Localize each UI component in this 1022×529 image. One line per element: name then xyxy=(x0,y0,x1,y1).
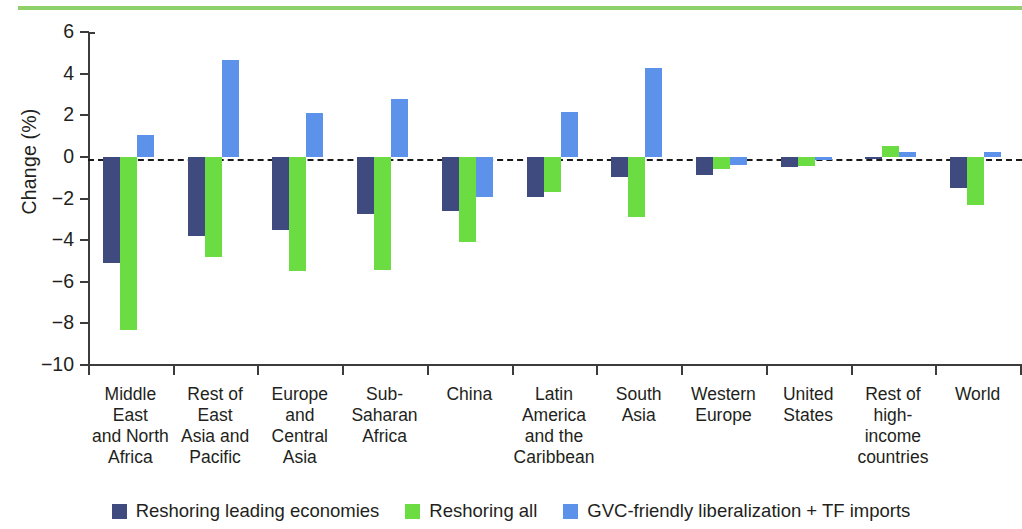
y-axis-tick-label: 4 xyxy=(22,64,74,84)
category-label-line: States xyxy=(762,405,855,426)
category-label-line: Western xyxy=(677,384,770,405)
bar xyxy=(391,99,408,157)
category-label-line: Sub- xyxy=(338,384,431,405)
category-label-line: Pacific xyxy=(169,447,262,468)
bar xyxy=(628,157,645,217)
bar xyxy=(815,157,832,160)
bar xyxy=(798,157,815,166)
plot-area xyxy=(88,32,1022,365)
category-label-line: Asia xyxy=(253,447,346,468)
bar xyxy=(544,157,561,192)
x-axis-tick xyxy=(257,366,259,375)
bar xyxy=(103,157,120,263)
category-label-line: East xyxy=(169,405,262,426)
bar xyxy=(882,146,899,156)
x-axis-category-label: World xyxy=(931,384,1022,405)
x-axis-tick xyxy=(88,366,90,375)
category-label-line: Middle xyxy=(84,384,177,405)
legend-label: Reshoring leading economies xyxy=(136,500,380,522)
category-label-line: East xyxy=(84,405,177,426)
bar xyxy=(899,152,916,157)
bar xyxy=(865,157,882,159)
chart-figure: Change (%) 6420−2−4−6−8−10 MiddleEastand… xyxy=(0,0,1022,529)
x-axis-category-label: China xyxy=(423,384,516,405)
bar xyxy=(730,157,747,165)
category-label-line: Europe xyxy=(253,384,346,405)
bar xyxy=(527,157,544,198)
y-axis-tick-label: −4 xyxy=(22,230,74,250)
legend-swatch-icon xyxy=(405,504,420,519)
bar xyxy=(222,60,239,157)
legend-label: Reshoring all xyxy=(429,500,537,522)
category-label-line: high-income xyxy=(847,405,940,447)
y-axis-tick-label: 6 xyxy=(22,22,74,42)
bar xyxy=(476,157,493,198)
chart-legend: Reshoring leading economiesReshoring all… xyxy=(0,500,1022,522)
x-axis-category-label: LatinAmericaand theCaribbean xyxy=(508,384,601,468)
bar xyxy=(713,157,730,169)
bar xyxy=(289,157,306,271)
y-axis-tick-label: −2 xyxy=(22,189,74,209)
category-label-line: Central xyxy=(253,426,346,447)
legend-item[interactable]: GVC-friendly liberalization + TF imports xyxy=(563,500,910,522)
bar xyxy=(205,157,222,257)
category-label-line: Asia xyxy=(592,405,685,426)
bar xyxy=(611,157,628,177)
bar xyxy=(272,157,289,230)
bar xyxy=(561,112,578,157)
bar xyxy=(984,152,1001,157)
x-axis-category-label: WesternEurope xyxy=(677,384,770,426)
category-label-line: United xyxy=(762,384,855,405)
category-label-line: Asia and xyxy=(169,426,262,447)
bar xyxy=(967,157,984,205)
category-label-line: China xyxy=(423,384,516,405)
category-label-line: South xyxy=(592,384,685,405)
category-label-line: Caribbean xyxy=(508,447,601,468)
bar xyxy=(306,113,323,157)
x-axis-tick xyxy=(766,366,768,375)
y-axis-tick-label: 2 xyxy=(22,105,74,125)
y-axis-tick-label: 0 xyxy=(22,147,74,167)
category-label-line: and xyxy=(253,405,346,426)
x-axis-tick xyxy=(681,366,683,375)
x-axis-tick xyxy=(173,366,175,375)
x-axis-category-label: Rest ofEastAsia andPacific xyxy=(169,384,262,468)
x-axis-tick xyxy=(851,366,853,375)
category-label-line: Latin xyxy=(508,384,601,405)
legend-swatch-icon xyxy=(563,504,578,519)
x-axis-tick xyxy=(512,366,514,375)
category-label-line: America xyxy=(508,405,601,426)
x-axis-tick xyxy=(935,366,937,375)
bar xyxy=(357,157,374,214)
bar xyxy=(188,157,205,236)
category-label-line: Rest of xyxy=(169,384,262,405)
bar xyxy=(781,157,798,167)
legend-item[interactable]: Reshoring leading economies xyxy=(112,500,380,522)
category-label-line: Saharan xyxy=(338,405,431,426)
top-accent-rule xyxy=(18,6,1022,10)
bar xyxy=(950,157,967,188)
bar xyxy=(459,157,476,242)
x-axis-tick xyxy=(427,366,429,375)
x-axis-tick xyxy=(596,366,598,375)
x-axis-category-label: SouthAsia xyxy=(592,384,685,426)
category-label-line: and North xyxy=(84,426,177,447)
legend-item[interactable]: Reshoring all xyxy=(405,500,537,522)
x-axis-category-label: Rest ofhigh-incomecountries xyxy=(847,384,940,468)
bar xyxy=(696,157,713,175)
y-axis-tick-label: −6 xyxy=(22,272,74,292)
category-label-line: and the xyxy=(508,426,601,447)
category-label-line: World xyxy=(931,384,1022,405)
x-axis-category-label: Sub-SaharanAfrica xyxy=(338,384,431,447)
category-label-line: Europe xyxy=(677,405,770,426)
y-axis-tick-label: −8 xyxy=(22,313,74,333)
bar xyxy=(442,157,459,211)
category-label-line: Africa xyxy=(338,426,431,447)
bar xyxy=(374,157,391,270)
category-label-line: Rest of xyxy=(847,384,940,405)
category-label-line: Africa xyxy=(84,447,177,468)
y-axis-tick-label: −10 xyxy=(22,355,74,375)
legend-swatch-icon xyxy=(112,504,127,519)
legend-label: GVC-friendly liberalization + TF imports xyxy=(587,500,910,522)
bar xyxy=(645,68,662,156)
